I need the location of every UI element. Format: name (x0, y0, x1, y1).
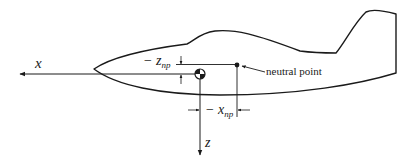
x-np-label-sub: np (224, 109, 233, 119)
neutral-point-label: neutral point (266, 66, 322, 77)
x-axis-label: x (35, 56, 42, 71)
x-np-label-main: − x (205, 102, 224, 117)
fuselage-outline (94, 11, 396, 95)
z-axis-label: z (205, 136, 210, 150)
z-np-label-main: − z (143, 53, 161, 68)
z-np-label: − znp (143, 54, 170, 68)
neutral-point-dot (235, 63, 240, 68)
x-np-label: − xnp (205, 103, 233, 117)
center-of-gravity-icon (195, 69, 205, 79)
neutral-point-leader-arrow (242, 66, 265, 72)
z-np-label-sub: np (161, 60, 170, 70)
